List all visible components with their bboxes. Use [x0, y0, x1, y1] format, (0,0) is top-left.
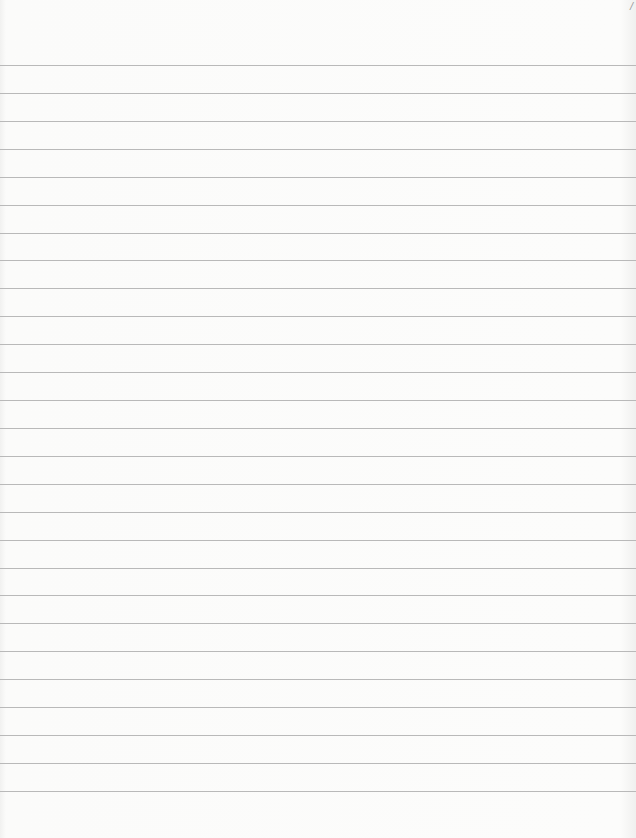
lined-page: /	[0, 0, 636, 838]
ruled-line	[0, 260, 636, 261]
ruled-line	[0, 344, 636, 345]
ruled-line	[0, 372, 636, 373]
ruled-line	[0, 288, 636, 289]
ruled-line	[0, 707, 636, 708]
ruled-line	[0, 177, 636, 178]
ruled-line	[0, 484, 636, 485]
ruled-line	[0, 791, 636, 792]
ruled-line	[0, 595, 636, 596]
ruled-line	[0, 512, 636, 513]
ruled-line	[0, 735, 636, 736]
ruled-line	[0, 233, 636, 234]
ruled-line	[0, 93, 636, 94]
ruled-line	[0, 651, 636, 652]
ruled-line	[0, 623, 636, 624]
ruled-line	[0, 540, 636, 541]
ruled-line	[0, 121, 636, 122]
ruled-line	[0, 568, 636, 569]
corner-mark: /	[630, 0, 633, 12]
ruled-line	[0, 763, 636, 764]
ruled-line	[0, 428, 636, 429]
ruled-line	[0, 205, 636, 206]
ruled-line	[0, 316, 636, 317]
ruled-line	[0, 456, 636, 457]
ruled-line	[0, 65, 636, 66]
ruled-line	[0, 679, 636, 680]
ruled-line	[0, 400, 636, 401]
ruled-line	[0, 149, 636, 150]
